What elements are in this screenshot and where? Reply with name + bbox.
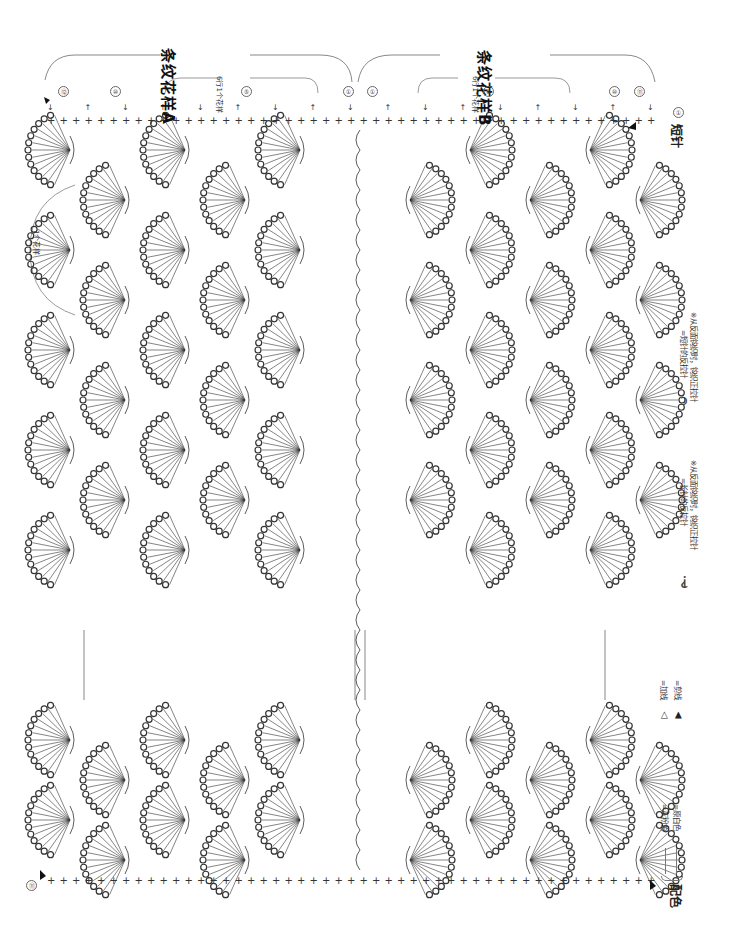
svg-text:+: + bbox=[147, 875, 155, 886]
svg-text:+: + bbox=[322, 875, 330, 886]
chart-symbols: ++↓++++++↑++++++↓++++++↑++++++↓++++++↑++… bbox=[0, 0, 730, 934]
svg-text:+: + bbox=[110, 115, 118, 126]
row-marker: ⑤ bbox=[483, 86, 494, 97]
svg-text:+: + bbox=[572, 115, 580, 126]
color-line-2 bbox=[676, 848, 677, 874]
svg-text:+: + bbox=[497, 875, 505, 886]
section-a-title: 条纹花样A bbox=[159, 48, 180, 125]
svg-text:↑: ↑ bbox=[235, 103, 242, 112]
svg-text:+: + bbox=[410, 875, 418, 886]
svg-text:↓: ↓ bbox=[647, 103, 654, 112]
svg-text:+: + bbox=[460, 875, 468, 886]
legend-note: ※从反面钩织时，钩织正拉针 bbox=[689, 460, 700, 550]
svg-text:↓: ↓ bbox=[272, 103, 279, 112]
svg-text:+: + bbox=[60, 115, 68, 126]
color-scheme-label: 配色 bbox=[668, 884, 685, 908]
svg-text:↑: ↑ bbox=[310, 103, 317, 112]
svg-text:+: + bbox=[185, 115, 193, 126]
svg-text:+: + bbox=[522, 115, 530, 126]
svg-text:+: + bbox=[72, 875, 80, 886]
svg-text:+: + bbox=[585, 875, 593, 886]
svg-text:↓: ↓ bbox=[47, 103, 54, 112]
svg-text:↓: ↓ bbox=[497, 103, 504, 112]
svg-text:↑: ↑ bbox=[535, 103, 542, 112]
svg-text:+: + bbox=[410, 115, 418, 126]
svg-text:+: + bbox=[47, 875, 55, 886]
start-row-marker: ① bbox=[673, 107, 684, 118]
color-line-1 bbox=[665, 848, 666, 874]
svg-text:↓: ↓ bbox=[347, 103, 354, 112]
svg-text:+: + bbox=[122, 875, 130, 886]
svg-text:+: + bbox=[235, 115, 243, 126]
add-yarn-icon: ◁ bbox=[660, 712, 670, 719]
crochet-chart: ++↓++++++↑++++++↓++++++↑++++++↓++++++↑++… bbox=[0, 0, 730, 934]
svg-text:+: + bbox=[160, 875, 168, 886]
svg-text:+: + bbox=[285, 875, 293, 886]
svg-text:+: + bbox=[647, 115, 655, 126]
svg-text:+: + bbox=[547, 115, 555, 126]
svg-text:+: + bbox=[185, 875, 193, 886]
color-entry-2: =原白色 bbox=[672, 804, 683, 831]
svg-text:+: + bbox=[360, 115, 368, 126]
legend-text: =剪线 bbox=[673, 680, 684, 700]
svg-text:+: + bbox=[222, 115, 230, 126]
svg-text:+: + bbox=[372, 115, 380, 126]
motif-repeat-label: 1个花样 bbox=[32, 230, 42, 255]
svg-text:+: + bbox=[385, 875, 393, 886]
svg-text:+: + bbox=[347, 875, 355, 886]
svg-text:+: + bbox=[97, 115, 105, 126]
svg-text:+: + bbox=[85, 115, 93, 126]
svg-text:+: + bbox=[210, 115, 218, 126]
long-reverse-pull-icon: ⸘ bbox=[680, 570, 689, 589]
svg-text:+: + bbox=[535, 115, 543, 126]
legend-text: =加线 bbox=[659, 680, 670, 700]
start-stitch-label: 短针 bbox=[669, 124, 686, 148]
svg-text:+: + bbox=[322, 115, 330, 126]
cut-yarn-icon: ◀ bbox=[674, 712, 684, 719]
short-reverse-pull-icon: ↄ bbox=[680, 392, 688, 408]
svg-text:+: + bbox=[397, 115, 405, 126]
svg-text:+: + bbox=[622, 115, 630, 126]
svg-text:+: + bbox=[360, 875, 368, 886]
svg-text:+: + bbox=[135, 875, 143, 886]
brace bbox=[661, 876, 683, 881]
svg-text:+: + bbox=[447, 115, 455, 126]
svg-text:+: + bbox=[522, 875, 530, 886]
svg-text:+: + bbox=[385, 115, 393, 126]
svg-text:+: + bbox=[272, 875, 280, 886]
svg-text:+: + bbox=[172, 875, 180, 886]
svg-text:+: + bbox=[335, 115, 343, 126]
svg-text:+: + bbox=[297, 875, 305, 886]
svg-text:+: + bbox=[460, 115, 468, 126]
end-row-marker: ⑪ bbox=[26, 880, 37, 891]
svg-text:↑: ↑ bbox=[460, 103, 467, 112]
svg-text:+: + bbox=[60, 875, 68, 886]
svg-text:+: + bbox=[422, 875, 430, 886]
svg-text:+: + bbox=[72, 115, 80, 126]
svg-text:↓: ↓ bbox=[122, 103, 129, 112]
svg-text:+: + bbox=[397, 875, 405, 886]
svg-text:+: + bbox=[310, 875, 318, 886]
svg-text:+: + bbox=[610, 875, 618, 886]
svg-text:↓: ↓ bbox=[572, 103, 579, 112]
svg-text:+: + bbox=[472, 875, 480, 886]
svg-text:+: + bbox=[635, 875, 643, 886]
svg-text:+: + bbox=[222, 875, 230, 886]
svg-text:+: + bbox=[135, 115, 143, 126]
row-marker: ⑤ bbox=[241, 86, 252, 97]
svg-text:+: + bbox=[622, 875, 630, 886]
svg-text:+: + bbox=[247, 115, 255, 126]
svg-text:↓: ↓ bbox=[422, 103, 429, 112]
row-marker: ① bbox=[367, 86, 378, 97]
svg-text:+: + bbox=[485, 875, 493, 886]
svg-text:+: + bbox=[260, 115, 268, 126]
svg-text:+: + bbox=[297, 115, 305, 126]
svg-text:+: + bbox=[335, 875, 343, 886]
svg-text:+: + bbox=[197, 115, 205, 126]
svg-text:+: + bbox=[372, 875, 380, 886]
svg-text:↑: ↑ bbox=[385, 103, 392, 112]
row-marker: ⑩ bbox=[110, 86, 121, 97]
svg-text:+: + bbox=[122, 115, 130, 126]
legend-note: ※从反面钩织时，钩织正拉针 bbox=[689, 312, 700, 402]
svg-text:+: + bbox=[510, 875, 518, 886]
